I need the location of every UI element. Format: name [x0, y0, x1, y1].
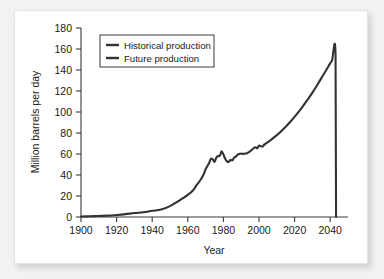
- x-axis-title: Year: [203, 244, 225, 256]
- y-axis-title: Million barrels per day: [29, 70, 41, 173]
- chart-canvas: 0 20 40 60 80 100 120 140 160 180: [15, 11, 367, 263]
- x-axis-ticks: [81, 217, 330, 222]
- x-tick-label: 1960: [176, 224, 200, 236]
- line-chart: 0 20 40 60 80 100 120 140 160 180: [15, 11, 367, 263]
- y-tick-label: 180: [54, 22, 72, 34]
- x-tick-label: 1940: [141, 224, 165, 236]
- y-tick-label: 100: [54, 106, 72, 118]
- x-tick-label: 1900: [69, 224, 93, 236]
- series-future-production: [264, 44, 336, 217]
- y-tick-label: 140: [54, 64, 72, 76]
- chart-legend: Historical production Future production: [100, 35, 214, 67]
- legend-label-historical: Historical production: [124, 40, 211, 51]
- series-historical-production: [81, 145, 264, 217]
- y-tick-label: 120: [54, 85, 72, 97]
- x-axis-tick-labels: 1900 1920 1940 1960 1980 2000 2020 2040: [69, 224, 342, 236]
- screenshot-root: 0 20 40 60 80 100 120 140 160 180: [0, 0, 384, 279]
- x-tick-label: 2000: [247, 224, 271, 236]
- y-axis-ticks: [76, 28, 81, 217]
- y-tick-label: 0: [66, 211, 72, 223]
- x-tick-label: 1920: [105, 224, 129, 236]
- y-tick-label: 160: [54, 43, 72, 55]
- y-tick-label: 20: [60, 190, 72, 202]
- chart-card: 0 20 40 60 80 100 120 140 160 180: [14, 10, 368, 264]
- x-tick-label: 1980: [212, 224, 236, 236]
- y-tick-label: 60: [60, 148, 72, 160]
- y-tick-label: 80: [60, 127, 72, 139]
- legend-label-future: Future production: [124, 53, 199, 64]
- x-tick-label: 2020: [283, 224, 307, 236]
- y-axis-tick-labels: 0 20 40 60 80 100 120 140 160 180: [54, 22, 72, 223]
- x-tick-label: 2040: [319, 224, 343, 236]
- y-tick-label: 40: [60, 169, 72, 181]
